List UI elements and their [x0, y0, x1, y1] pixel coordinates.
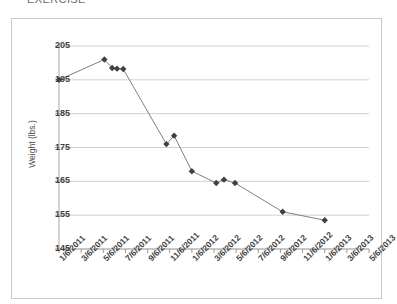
y-axis-title: Weight (lbs.) — [27, 99, 37, 189]
x-axis-tick-labels: 1/6/20113/6/20115/6/20117/6/20119/6/2011… — [12, 19, 383, 300]
chart-frame: 205195185175165155145 1/6/20113/6/20115/… — [11, 18, 382, 299]
cut-off-caption: EXERCISE — [27, 0, 86, 4]
